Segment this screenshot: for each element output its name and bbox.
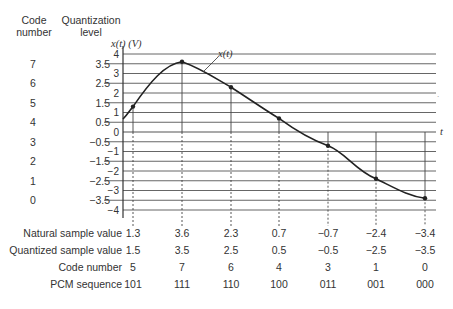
pcm-7: 000 [405,278,445,290]
y-tick-labels: 4 3 2 1 0 −1 −2 −3 −4 [108,49,120,216]
code-7: 0 [405,261,445,273]
code-1: 5 [113,261,153,273]
ytick-2: 2 [113,88,119,99]
quantized-5: −0.5 [308,244,348,256]
code-5: 3 [308,261,348,273]
pcm-3: 110 [211,278,251,290]
ytick-1: 1 [113,107,119,118]
natural-3: 2.3 [211,227,251,239]
gridlines [104,54,436,210]
quantized-4: 0.5 [259,244,299,256]
ytick-neg3: −3 [108,185,120,196]
ytick-neg4: −4 [108,205,120,216]
natural-7: −3.4 [405,227,445,239]
y-axis-label: x(t) (V) [110,38,142,50]
natural-6: −2.4 [356,227,396,239]
row-label-natural: Natural sample value [0,227,122,239]
code-6: 1 [356,261,396,273]
natural-4: 0.7 [259,227,299,239]
ytick-3: 3 [113,68,119,79]
curve-label-leader [203,57,218,72]
stray-dot: . [437,90,439,99]
quantized-3: 2.5 [211,244,251,256]
code-2: 7 [162,261,202,273]
pcm-6: 001 [356,278,396,290]
natural-5: −0.7 [308,227,348,239]
pcm-5: 011 [308,278,348,290]
pcm-4: 100 [259,278,299,290]
pcm-1: 101 [113,278,153,290]
quantized-7: −3.5 [405,244,445,256]
ytick-neg2: −2 [108,166,120,177]
x-axis-label: t [440,126,444,137]
sample-dashed-lines [133,132,425,226]
code-3: 6 [211,261,251,273]
curve-label: x(t) [217,48,233,60]
row-label-pcm: PCM sequence [0,278,122,290]
pcm-2: 111 [162,278,202,290]
row-label-code: Code number [0,261,122,273]
quantized-2: 3.5 [162,244,202,256]
natural-1: 1.3 [113,227,153,239]
natural-2: 3.6 [162,227,202,239]
code-4: 4 [259,261,299,273]
ytick-4: 4 [113,49,119,60]
ytick-0: 0 [113,127,119,138]
row-label-quantized: Quantized sample value [0,244,122,256]
signal-curve [123,62,425,199]
ytick-neg1: −1 [108,146,120,157]
quantized-6: −2.5 [356,244,396,256]
quantized-1: 1.5 [113,244,153,256]
